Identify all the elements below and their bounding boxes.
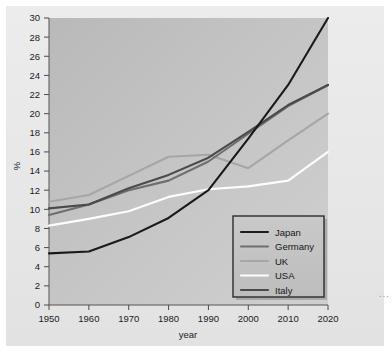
y-tick-label: 2 (35, 280, 40, 291)
x-axis-ticks: 19501960197019801990200020102020 (38, 305, 338, 324)
y-tick-label: 6 (35, 242, 40, 253)
chart-figure: 024681012141618202224262830 195019601970… (0, 0, 392, 358)
y-axis-ticks: 024681012141618202224262830 (29, 12, 49, 310)
y-tick-label: 22 (29, 89, 40, 100)
y-tick-label: 26 (29, 51, 40, 62)
y-tick-label: 12 (29, 185, 40, 196)
y-tick-label: 14 (29, 165, 40, 176)
line-chart: 024681012141618202224262830 195019601970… (0, 0, 392, 358)
y-tick-label: 0 (35, 299, 40, 310)
x-tick-label: 1980 (158, 313, 179, 324)
legend-label-japan: Japan (275, 227, 301, 238)
y-tick-label: 24 (29, 70, 40, 81)
x-tick-label: 1990 (198, 313, 219, 324)
y-tick-label: 18 (29, 127, 40, 138)
y-tick-label: 10 (29, 204, 40, 215)
legend-label-usa: USA (275, 270, 295, 281)
x-tick-label: 2010 (278, 313, 299, 324)
legend-label-italy: Italy (275, 285, 293, 296)
y-tick-label: 20 (29, 108, 40, 119)
x-tick-label: 1970 (118, 313, 139, 324)
y-tick-label: 8 (35, 223, 40, 234)
x-tick-label: 1960 (78, 313, 99, 324)
x-tick-label: 2020 (317, 313, 338, 324)
x-tick-label: 1950 (38, 313, 59, 324)
legend-label-germany: Germany (275, 241, 314, 252)
y-axis-title: % (11, 161, 22, 170)
y-tick-label: 28 (29, 32, 40, 43)
legend-label-uk: UK (275, 256, 289, 267)
x-tick-label: 2000 (238, 313, 259, 324)
margin-ellipsis: ... (379, 288, 390, 299)
chart-legend[interactable]: JapanGermanyUKUSAItaly (233, 216, 327, 300)
y-tick-label: 30 (29, 12, 40, 23)
y-tick-label: 4 (35, 261, 40, 272)
x-axis-title: year (179, 329, 197, 340)
y-tick-label: 16 (29, 146, 40, 157)
